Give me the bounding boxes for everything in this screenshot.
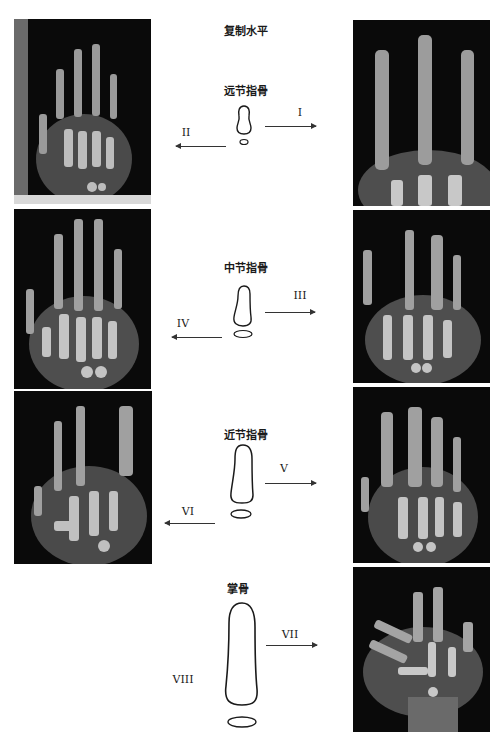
xray-left-2 xyxy=(14,209,151,389)
diagram-title: 复制水平 xyxy=(224,22,268,38)
xray-left-3 xyxy=(14,391,152,564)
xray-left-1 xyxy=(14,19,151,204)
xray-right-1 xyxy=(353,20,490,206)
stage-label-distal-phalanx: 远节指骨 xyxy=(224,82,268,98)
arrow-left-vi xyxy=(165,523,215,524)
stage-numeral-ii: II xyxy=(182,126,191,139)
stage-numeral-iv: IV xyxy=(177,317,189,330)
arrow-left-iv xyxy=(172,337,222,338)
arrow-left-ii xyxy=(176,146,226,147)
arrow-right-i xyxy=(265,126,316,127)
stage-label-metacarpal: 掌骨 xyxy=(227,580,249,596)
stage-numeral-v: V xyxy=(280,462,288,475)
stage-label-proximal-phalanx: 近节指骨 xyxy=(224,426,268,442)
xray-right-2 xyxy=(353,210,490,383)
middle-phalanx-icon xyxy=(230,284,256,344)
distal-phalanx-icon xyxy=(234,104,254,152)
xray-right-4 xyxy=(353,567,490,732)
arrow-right-v xyxy=(265,483,316,484)
arrow-right-iii xyxy=(265,312,315,313)
stage-label-middle-phalanx: 中节指骨 xyxy=(224,259,268,275)
stage-numeral-i: I xyxy=(298,106,302,119)
arrow-right-vii xyxy=(266,645,317,646)
stage-numeral-iii: III xyxy=(293,289,306,302)
stage-numeral-vii: VII xyxy=(282,628,299,641)
stage-numeral-vi: VI xyxy=(182,505,194,518)
proximal-phalanx-icon xyxy=(225,443,259,525)
metacarpal-icon xyxy=(222,601,262,735)
xray-right-3 xyxy=(353,387,490,563)
stage-numeral-viii: VIII xyxy=(173,673,194,686)
